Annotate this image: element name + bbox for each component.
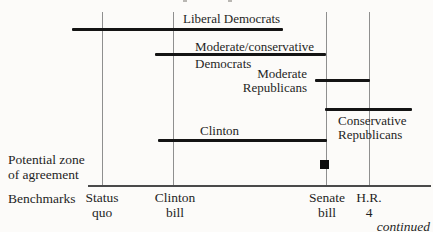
clinton-label: Clinton xyxy=(200,124,239,137)
zone-of-agreement-marker xyxy=(320,160,329,169)
moderate-republicans-label: Moderate Republicans xyxy=(237,67,307,94)
potential-zone-of-agreement-label: Potential zone of agreement xyxy=(8,152,85,182)
cropped-title-remnant xyxy=(183,0,187,2)
tick-hr4: H.R. 4 xyxy=(329,190,409,220)
moderate-republicans-bar xyxy=(315,79,370,82)
conservative-republicans-label: Conservative Republicans xyxy=(338,114,407,141)
continued-note: continued xyxy=(377,219,430,232)
figure-page: Liberal Democrats Moderate/conservative … xyxy=(0,0,433,232)
benchmark-axis-line xyxy=(88,185,431,187)
moderate-conservative-democrats-label-line1: Moderate/conservative xyxy=(195,40,314,53)
liberal-democrats-label: Liberal Democrats xyxy=(183,12,280,25)
gridline-hr4 xyxy=(369,12,370,186)
liberal-democrats-bar xyxy=(72,28,283,31)
cropped-title-remnant xyxy=(228,0,232,2)
gridline-clinton-bill xyxy=(173,12,174,186)
conservative-republicans-bar xyxy=(325,108,412,111)
tick-status-quo: Status quo xyxy=(62,190,142,220)
gridline-status-quo xyxy=(102,12,103,186)
tick-clinton-bill: Clinton bill xyxy=(135,190,215,220)
clinton-bar xyxy=(158,139,327,142)
